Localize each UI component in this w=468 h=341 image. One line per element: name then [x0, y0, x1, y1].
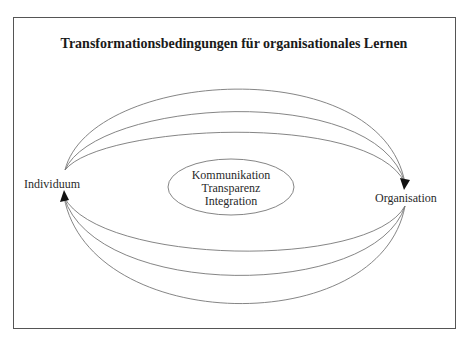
node-organisation: Organisation — [375, 191, 437, 206]
node-individuum: Individuum — [24, 177, 80, 192]
arrow-head-right-icon — [400, 178, 410, 190]
condition-integration: Integration — [168, 195, 294, 208]
bottom-arc-middle — [64, 197, 405, 275]
center-conditions: Kommunikation Transparenz Integration — [168, 169, 294, 208]
